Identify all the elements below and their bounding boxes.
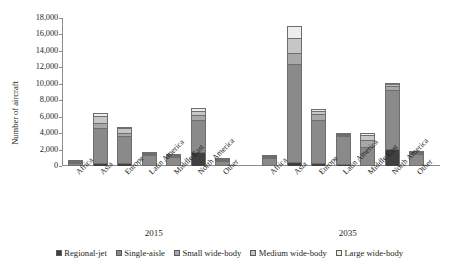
y-axis-tick-mark xyxy=(59,18,62,19)
y-axis-tick-mark xyxy=(59,34,62,35)
bar-segment-single-aisle xyxy=(287,64,302,162)
y-axis-tick-mark xyxy=(59,84,62,85)
y-axis-tick-mark xyxy=(59,51,62,52)
legend-label: Single-aisle xyxy=(124,248,165,258)
bar-segment-large-wide-body xyxy=(287,26,302,38)
bar-segment-single-aisle xyxy=(385,90,400,148)
chart-legend: Regional-jetSingle-aisleSmall wide-bodyM… xyxy=(0,248,459,258)
legend-item-regional-jet[interactable]: Regional-jet xyxy=(56,248,107,258)
bar-segment-medium-wide-body xyxy=(287,38,302,54)
bar-2015-asia xyxy=(93,113,108,166)
plot-area xyxy=(62,18,440,166)
bar-segment-single-aisle xyxy=(311,120,326,163)
legend-label: Small wide-body xyxy=(182,248,241,258)
y-axis-tick-mark xyxy=(59,117,62,118)
y-axis-tick-label: 16,000 xyxy=(18,30,58,38)
aircraft-fleet-stacked-bar-chart: Number of aircraft 02,0004,0006,0008,000… xyxy=(0,0,459,272)
y-axis-tick-mark xyxy=(59,100,62,101)
bar-segment-single-aisle xyxy=(117,136,132,163)
bar-2015-europe xyxy=(117,127,132,166)
y-axis-tick-mark xyxy=(59,133,62,134)
y-axis-tick-labels: 02,0004,0006,0008,00010,00012,00014,0001… xyxy=(14,18,58,166)
y-axis-tick-label: 8,000 xyxy=(18,96,58,104)
y-axis-tick-label: 10,000 xyxy=(18,80,58,88)
bar-segment-single-aisle xyxy=(93,128,108,163)
y-axis-tick-label: 12,000 xyxy=(18,63,58,71)
y-axis-tick-label: 6,000 xyxy=(18,113,58,121)
y-axis-tick-label: 2,000 xyxy=(18,146,58,154)
legend-label: Large wide-body xyxy=(344,248,403,258)
y-axis-tick-label: 0 xyxy=(18,162,58,170)
group-label-2015: 2015 xyxy=(124,228,184,238)
legend-item-single-aisle[interactable]: Single-aisle xyxy=(116,248,165,258)
legend-swatch-icon xyxy=(336,250,342,256)
group-label-2035: 2035 xyxy=(318,228,378,238)
y-axis-tick-mark xyxy=(59,67,62,68)
y-axis-line xyxy=(62,18,63,166)
y-axis-tick-label: 14,000 xyxy=(18,47,58,55)
bar-segment-small-wide-body xyxy=(287,53,302,64)
bar-2035-asia xyxy=(287,26,302,166)
legend-swatch-icon xyxy=(250,250,256,256)
y-axis-tick-label: 18,000 xyxy=(18,14,58,22)
y-axis-tick-label: 4,000 xyxy=(18,129,58,137)
legend-label: Regional-jet xyxy=(64,248,106,258)
legend-label: Medium wide-body xyxy=(259,248,327,258)
y-axis-tick-mark xyxy=(59,166,62,167)
legend-swatch-icon xyxy=(174,250,180,256)
bar-2035-europe xyxy=(311,109,326,166)
y-axis-tick-mark xyxy=(59,150,62,151)
legend-item-medium-wide-body[interactable]: Medium wide-body xyxy=(250,248,327,258)
legend-swatch-icon xyxy=(56,250,62,256)
legend-item-large-wide-body[interactable]: Large wide-body xyxy=(336,248,403,258)
legend-swatch-icon xyxy=(116,250,122,256)
legend-item-small-wide-body[interactable]: Small wide-body xyxy=(174,248,241,258)
